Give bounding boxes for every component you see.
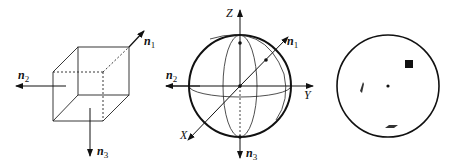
cube-n1-arrow xyxy=(129,31,144,47)
cube-n1-label: n1 xyxy=(144,34,155,50)
pole-dot-n1 xyxy=(264,58,268,62)
projection-center-dot xyxy=(386,84,389,87)
x-label: X xyxy=(179,128,188,142)
figure-canvas: n1 n2 n3 Z Y X n1 n2 n3 xyxy=(0,0,454,166)
center-dot xyxy=(238,84,242,88)
parallelogram-left-marker xyxy=(360,82,364,93)
sphere-panel: Z Y X n1 n2 n3 xyxy=(166,6,313,162)
cube-n3-label: n3 xyxy=(97,144,109,160)
projection-panel xyxy=(337,35,439,137)
cube xyxy=(53,47,129,121)
cube-n2-label: n2 xyxy=(18,68,29,84)
square-pole-marker xyxy=(405,60,413,68)
z-label: Z xyxy=(226,6,233,20)
cube-panel: n1 n2 n3 xyxy=(16,31,155,160)
pole-dot-bottom xyxy=(238,135,242,139)
pole-dot-top xyxy=(238,41,242,45)
y-label: Y xyxy=(304,88,312,102)
sph-n3-label: n3 xyxy=(246,146,258,162)
sph-n2-label: n2 xyxy=(166,68,177,84)
parallelogram-bottom-marker xyxy=(385,125,398,128)
sph-n1-label: n1 xyxy=(287,34,298,50)
